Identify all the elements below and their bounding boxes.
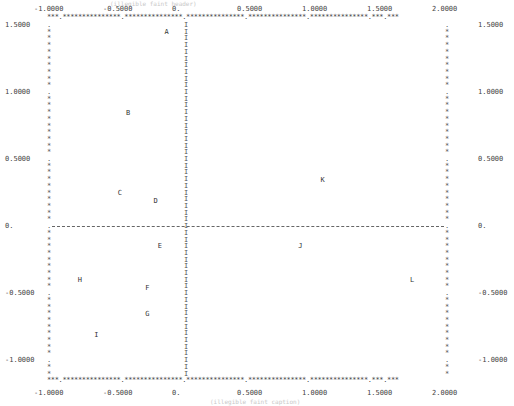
x-tick-label: 2.0000: [432, 389, 457, 397]
x-tick-label: -0.5000: [103, 5, 133, 13]
plot-border-left: . * * * * * * * * * . * * * * * * * * * …: [46, 22, 52, 377]
zero-y-reference-line: [52, 226, 444, 227]
data-point-j: J: [298, 242, 302, 250]
y-tick-label: 1.0000: [5, 88, 30, 96]
plot-border-right: . * * * * * * * * * . * * * * * * * * * …: [444, 22, 450, 377]
y-tick-label: 0.: [5, 222, 13, 230]
x-tick-label: 1.5000: [367, 389, 392, 397]
y-tick-label: 1.5000: [478, 21, 503, 29]
zero-x-reference-line: I I I I I I I I I I I I I I I I I I I I …: [183, 22, 189, 377]
data-point-e: E: [158, 242, 162, 250]
x-tick-label: -0.5000: [103, 389, 133, 397]
x-tick-label: 1.0000: [302, 389, 327, 397]
x-tick-label: 0.: [172, 389, 180, 397]
x-tick-label: 1.5000: [367, 5, 392, 13]
x-tick-label: -1.0000: [34, 5, 64, 13]
y-tick-label: 0.5000: [478, 155, 503, 163]
plot-border-top: ***.***************.***************.****…: [47, 14, 399, 21]
data-point-a: A: [165, 28, 169, 36]
data-point-l: L: [410, 276, 414, 284]
data-point-f: F: [145, 284, 149, 292]
y-tick-label: 0.: [478, 222, 486, 230]
x-tick-label: -1.0000: [34, 389, 64, 397]
x-tick-label: 0.5000: [237, 389, 262, 397]
data-point-g: G: [145, 310, 149, 318]
y-tick-label: 0.5000: [5, 155, 30, 163]
data-point-i: I: [94, 331, 98, 339]
data-point-b: B: [126, 109, 130, 117]
data-point-c: C: [118, 189, 122, 197]
y-tick-label: -0.5000: [5, 289, 35, 297]
data-point-h: H: [78, 276, 82, 284]
y-tick-label: -1.0000: [478, 356, 508, 364]
x-tick-label: 0.: [172, 5, 180, 13]
data-point-d: D: [154, 197, 158, 205]
x-tick-label: 2.0000: [432, 5, 457, 13]
x-tick-label: 0.5000: [237, 5, 262, 13]
y-tick-label: -1.0000: [5, 356, 35, 364]
y-tick-label: 1.0000: [478, 88, 503, 96]
y-tick-label: 1.5000: [5, 21, 30, 29]
chart-footer: (illegible faint caption): [210, 398, 300, 406]
scatter-plot: (illegible faint header) (illegible fain…: [0, 0, 514, 406]
y-tick-label: -0.5000: [478, 289, 508, 297]
x-tick-label: 1.0000: [302, 5, 327, 13]
plot-border-bottom: ***.***************.***************.****…: [47, 377, 399, 384]
data-point-k: K: [320, 176, 324, 184]
